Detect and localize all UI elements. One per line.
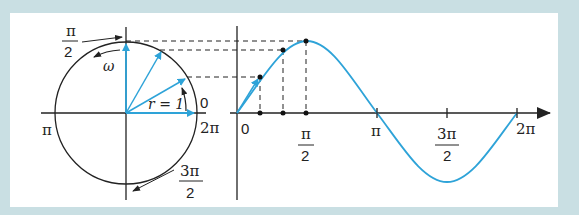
label-pi-half-den: 2 bbox=[64, 43, 72, 60]
label-radius: r = 1 bbox=[148, 96, 184, 112]
tick-label-three-pi-half-num: 3π bbox=[437, 125, 457, 143]
diagram-canvas: π 2 ω r = 1 0 2π π 3π 2 bbox=[0, 0, 579, 215]
label-three-pi-half-den: 2 bbox=[186, 184, 194, 201]
sine-wave-group: 0 π 2 π 3π 2 2π bbox=[230, 26, 550, 200]
label-zero: 0 bbox=[200, 94, 208, 111]
tick-label-pi: π bbox=[371, 122, 381, 140]
label-three-pi-half-num: 3π bbox=[180, 162, 200, 180]
tick-label-0: 0 bbox=[241, 120, 249, 137]
label-two-pi: 2π bbox=[200, 119, 220, 137]
label-pi: π bbox=[42, 121, 52, 139]
label-pi-half-num: π bbox=[66, 22, 76, 40]
omega-arc-icon bbox=[94, 50, 120, 57]
unit-circle-group: π 2 ω r = 1 0 2π π 3π 2 bbox=[41, 22, 220, 201]
label-omega: ω bbox=[103, 58, 115, 74]
three-pi-half-leader bbox=[133, 170, 174, 191]
tick-label-pi-half-num: π bbox=[301, 125, 311, 143]
tick-label-pi-half-den: 2 bbox=[301, 147, 309, 164]
wave-start-arrow bbox=[237, 79, 258, 113]
pi-half-leader bbox=[82, 37, 122, 42]
tick-label-two-pi: 2π bbox=[516, 120, 536, 138]
tick-label-three-pi-half-den: 2 bbox=[443, 147, 451, 164]
